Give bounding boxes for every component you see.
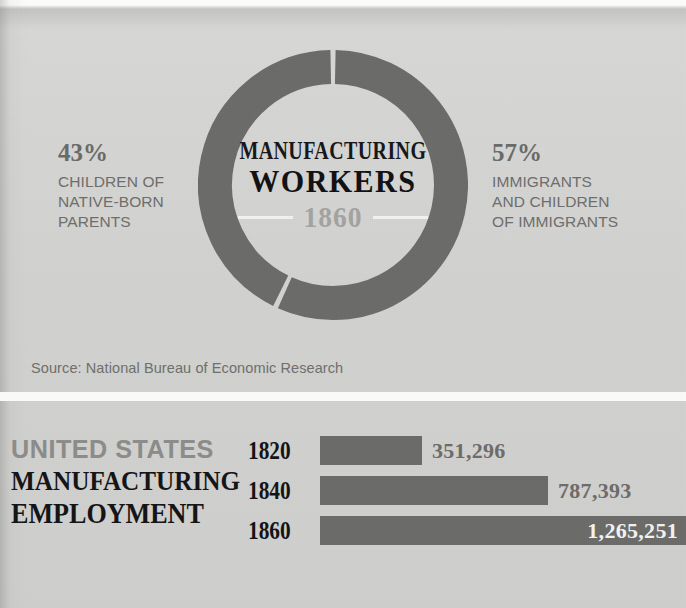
bar-track: 351,296 [320, 436, 686, 465]
donut-center-line2: WORKERS [250, 165, 417, 199]
legend-immigrants-line1: IMMIGRANTS [492, 172, 662, 192]
bar-track: 787,393 [320, 476, 686, 505]
donut-center-year: 1860 [295, 203, 371, 232]
legend-native-born-line3: PARENTS [58, 212, 228, 232]
bar-track: 1,265,251 [320, 516, 686, 545]
donut-center-label: MANUFACTURING WORKERS 1860 [198, 50, 468, 320]
bar-row: 18601,265,251 [248, 516, 686, 545]
bar-chart: 1820351,2961840787,39318601,265,251 [248, 436, 686, 556]
legend-immigrants: 57% IMMIGRANTS AND CHILDREN OF IMMIGRANT… [492, 139, 662, 233]
bar-year-label: 1860 [248, 518, 307, 544]
legend-native-born-percent: 43% [58, 139, 228, 167]
donut-panel: MANUFACTURING WORKERS 1860 43% CHILDREN … [0, 0, 686, 392]
bar-value-label: 351,296 [432, 438, 506, 464]
bar-fill [320, 476, 548, 505]
legend-native-born-line2: NATIVE-BORN [58, 192, 228, 212]
bar-title-line2: MANUFACTURING [11, 465, 227, 496]
bar-panel: UNITED STATES MANUFACTURING EMPLOYMENT 1… [0, 401, 686, 608]
year-rule-right [373, 216, 428, 219]
bar-title-line1: UNITED STATES [11, 435, 244, 463]
donut-source: Source: National Bureau of Economic Rese… [31, 360, 343, 376]
bar-year-label: 1820 [248, 438, 307, 464]
legend-native-born-line1: CHILDREN OF [58, 172, 228, 192]
year-rule-left [238, 216, 293, 219]
legend-immigrants-line2: AND CHILDREN [492, 192, 662, 212]
bar-row: 1840787,393 [248, 476, 686, 505]
bar-row: 1820351,296 [248, 436, 686, 465]
donut-center-line1: MANUFACTURING [239, 138, 426, 163]
bar-panel-title: UNITED STATES MANUFACTURING EMPLOYMENT [11, 435, 251, 530]
bar-year-label: 1840 [248, 478, 307, 504]
legend-native-born-text: CHILDREN OF NATIVE-BORN PARENTS [58, 172, 228, 233]
bar-title-line3: EMPLOYMENT [11, 497, 227, 529]
bar-fill [320, 436, 422, 465]
legend-immigrants-text: IMMIGRANTS AND CHILDREN OF IMMIGRANTS [492, 172, 662, 233]
donut-chart: MANUFACTURING WORKERS 1860 [198, 50, 468, 320]
infographic-page: MANUFACTURING WORKERS 1860 43% CHILDREN … [0, 0, 686, 608]
legend-native-born: 43% CHILDREN OF NATIVE-BORN PARENTS [58, 139, 228, 233]
panel-divider [0, 392, 686, 401]
donut-center-year-row: 1860 [238, 203, 428, 232]
bar-value-label: 1,265,251 [587, 518, 678, 544]
legend-immigrants-line3: OF IMMIGRANTS [492, 212, 662, 232]
bar-value-label: 787,393 [558, 478, 632, 504]
legend-immigrants-percent: 57% [492, 139, 662, 167]
